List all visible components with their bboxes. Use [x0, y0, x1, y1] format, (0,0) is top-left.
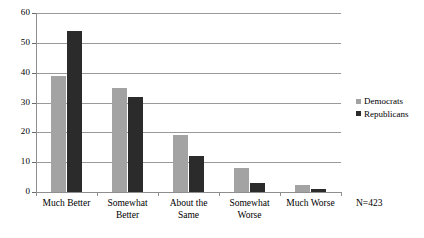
x-tick-mark: [158, 192, 159, 196]
x-tick-mark: [280, 192, 281, 196]
legend-item: Republicans: [356, 108, 409, 121]
x-tick-mark: [36, 192, 37, 196]
bar: [67, 31, 82, 192]
legend-swatch-icon: [356, 99, 361, 104]
x-tick-mark: [219, 192, 220, 196]
bar: [128, 97, 143, 192]
legend-swatch-icon: [356, 111, 361, 116]
y-tick-label: 10: [6, 157, 30, 166]
bar: [51, 76, 66, 192]
plot-area: [36, 13, 341, 192]
bar: [250, 183, 265, 192]
bar: [189, 156, 204, 192]
x-category-label-line: Worse: [211, 210, 288, 222]
x-category-label: Much Worse: [272, 198, 349, 210]
y-tick-label: 30: [6, 98, 30, 107]
y-tick-label: 20: [6, 127, 30, 136]
x-category-label-line: Much Worse: [272, 198, 349, 210]
legend: DemocratsRepublicans: [356, 95, 409, 120]
legend-label: Democrats: [364, 95, 403, 108]
bar: [311, 189, 326, 192]
y-tick-label: 60: [6, 8, 30, 17]
x-axis-line: [36, 192, 342, 193]
y-tick-label: 0: [6, 187, 30, 196]
y-tick-label: 50: [6, 38, 30, 47]
bar: [295, 185, 310, 192]
sample-size-note: N=423: [356, 198, 382, 209]
x-tick-mark: [97, 192, 98, 196]
y-tick-label: 40: [6, 68, 30, 77]
bar: [112, 88, 127, 192]
bar: [234, 168, 249, 192]
x-tick-mark: [341, 192, 342, 196]
legend-item: Democrats: [356, 95, 409, 108]
legend-label: Republicans: [364, 108, 409, 121]
bar: [173, 135, 188, 192]
bar-chart: 0102030405060 Much BetterSomewhatBetterA…: [0, 0, 424, 238]
